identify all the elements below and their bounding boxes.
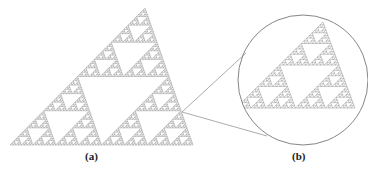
zoom-connector-top <box>182 53 246 112</box>
figure-canvas <box>0 0 368 178</box>
sierpinski-triangle-zoomed <box>236 22 355 108</box>
panel-b-label: (b) <box>292 150 305 162</box>
sierpinski-triangle-full <box>10 8 193 145</box>
panel-a-label: (a) <box>85 150 98 162</box>
zoom-circle <box>238 15 368 145</box>
zoom-connector-bottom <box>182 112 267 136</box>
